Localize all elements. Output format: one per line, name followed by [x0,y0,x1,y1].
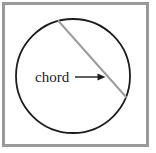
chord-line [58,21,127,98]
arrow-head-icon [98,74,106,81]
figure-canvas: chord [0,0,156,153]
chord-label: chord [35,69,70,85]
figure-frame [4,4,148,146]
arrow-icon [75,74,106,81]
geometry-diagram: chord [0,0,156,153]
